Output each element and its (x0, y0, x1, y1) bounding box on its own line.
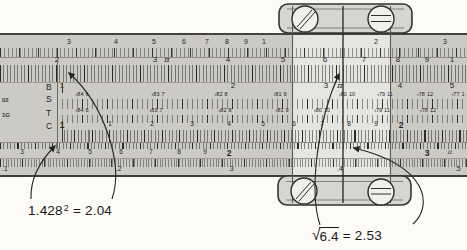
scale-mark: 3 (67, 38, 71, 45)
scale-mark: 2 (231, 82, 235, 90)
sqrt-radicand: 6.4 (319, 227, 338, 244)
scale-mark: 2 (227, 149, 232, 158)
scale-mark: 2 (150, 121, 154, 128)
scale-mark: 8 (225, 38, 229, 45)
slide-rule-body: 3456789123 23π4567891 123π45 ‹846‹837‹82… (0, 33, 467, 177)
scale-A-numbers: 23π4567891 (0, 56, 467, 66)
scale-mark: .5 (455, 166, 460, 173)
scale-mark: 6 (119, 149, 123, 156)
screw-icon (292, 6, 318, 32)
scale-mark: 8 (396, 56, 400, 64)
scale-mark: 7 (149, 149, 153, 156)
screw-icon (368, 6, 394, 32)
scale-mark: 9 (203, 149, 207, 156)
scale-mark: ‹7911 (377, 92, 393, 98)
square-base: 1.428 (28, 203, 63, 218)
left-edge-fragment-2: 1G (2, 112, 10, 118)
scale-mark: ‹8010 (339, 92, 355, 98)
scale-mark: 2 (374, 38, 378, 45)
scale-mark: 3 (153, 56, 157, 64)
scale-mark: .4 (337, 166, 342, 173)
scale-ticks-A-B (0, 65, 467, 82)
scale-mark: 2 (399, 121, 404, 130)
scale-mark: .3 (228, 166, 233, 173)
scale-mark: 9 (244, 38, 248, 45)
scale-ticks-C (57, 130, 467, 142)
scale-mark: ‹8010 (314, 108, 330, 114)
scale-mark: 3 (324, 82, 328, 90)
scale-mark: 1 (108, 121, 112, 128)
scale-mark: ‹837 (151, 92, 164, 98)
scale-L-numbers: .1.2.3.4.5 (0, 166, 467, 175)
scale-mark: ‹819 (275, 108, 288, 114)
scale-mark: 6 (323, 56, 327, 64)
scale-C-numbers: 11234567892 (0, 121, 467, 131)
cursor-bottom-cap (278, 176, 411, 205)
scale-ticks-D (0, 142, 467, 149)
left-edge-fragment-1: 02 (2, 97, 9, 103)
body-slide-joint-bottom (0, 142, 467, 143)
scale-mark: ‹7812 (417, 92, 433, 98)
scale-mark: 7 (205, 38, 209, 45)
scale-mark: ‹7812 (420, 108, 436, 114)
scale-mark: ‹771 (451, 92, 464, 98)
scale-mark: 3 (20, 149, 24, 156)
scale-mark: 1 (262, 38, 266, 45)
annotation-sqrt: √6.4 = 2.53 (312, 226, 382, 243)
scale-mark: 8 (347, 121, 351, 128)
scale-label-T: T (46, 109, 51, 118)
scale-mark: 5 (450, 82, 454, 90)
scale-mark: 9 (374, 121, 378, 128)
scale-mark: .2 (116, 166, 121, 173)
scale-mark: .1 (2, 166, 7, 173)
scale-K-numbers: 3456789123 (0, 38, 467, 48)
scale-D-numbers: 345678923π (0, 149, 467, 159)
scale-mark: 5 (261, 121, 265, 128)
scale-mark: ‹819 (273, 92, 286, 98)
scale-mark: 5 (88, 149, 92, 156)
scale-B-numbers: 123π45 (0, 82, 467, 92)
scale-mark: ‹846 (75, 92, 88, 98)
scale-mark: 6 (292, 121, 296, 128)
scale-mark: 6 (182, 38, 186, 45)
square-exponent: 2 (64, 203, 69, 213)
scale-mark: 1 (450, 56, 454, 64)
scale-label-C: C (46, 122, 52, 131)
scale-T-numbers: ‹846‹837‹828‹819‹8010‹7911‹7812 (0, 108, 467, 116)
c-scale-index-tick (62, 121, 63, 142)
scale-mark: 7 (362, 56, 366, 64)
scale-mark: 4 (227, 121, 231, 128)
scale-mark: 3 (190, 121, 194, 128)
scale-mark: 4 (398, 82, 402, 90)
scale-mark: π (448, 149, 452, 156)
scale-S-numbers: ‹846‹837‹828‹819‹8010‹7911‹7812‹771 (0, 92, 467, 100)
screw-icon (291, 178, 317, 204)
scale-mark: 4 (56, 149, 60, 156)
scale-mark: ‹7911 (374, 108, 390, 114)
scale-label-S: S (46, 95, 52, 104)
scale-mark: 5 (281, 56, 285, 64)
scale-label-B: B (46, 83, 52, 92)
scale-mark: 4 (114, 38, 118, 45)
scale-mark: 9 (425, 56, 429, 64)
scale-mark: 3 (425, 149, 430, 158)
scale-mark: π (164, 56, 169, 64)
b-scale-index-tick (62, 83, 63, 93)
scale-mark: ‹846 (75, 108, 88, 114)
square-result: = 2.04 (73, 203, 112, 218)
scale-mark: π (337, 82, 342, 90)
scale-mark: 3 (443, 38, 447, 45)
cursor-top-cap (279, 4, 412, 33)
scale-mark: 7 (320, 121, 324, 128)
scale-mark: ‹828 (218, 108, 231, 114)
scale-mark: ‹828 (214, 92, 227, 98)
slide-left-end-line (57, 59, 58, 149)
scale-mark: 4 (226, 56, 230, 64)
scale-mark: ‹837 (149, 108, 162, 114)
slide-rule-figure: 3456789123 23π4567891 123π45 ‹846‹837‹82… (0, 0, 467, 250)
sqrt-result: = 2.53 (343, 228, 382, 243)
scale-mark: 5 (152, 38, 156, 45)
scale-mark: 8 (177, 149, 181, 156)
annotation-square: 1.4282 = 2.04 (28, 203, 112, 218)
screw-icon (368, 179, 394, 205)
